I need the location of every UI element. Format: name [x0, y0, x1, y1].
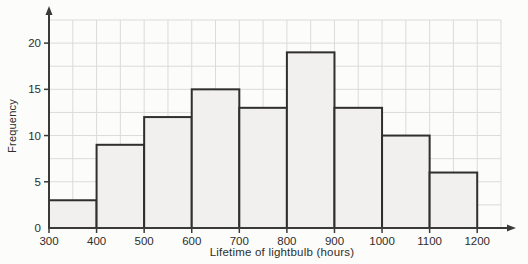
- y-tick-label: 0: [35, 222, 41, 234]
- histogram-bar: [239, 108, 287, 228]
- histogram-bar: [144, 117, 192, 228]
- histogram-bar: [430, 173, 478, 228]
- histogram-bar: [382, 136, 430, 228]
- y-axis-title: Frequency: [6, 56, 18, 196]
- chart-canvas: 0510152030040050060070080090010001100120…: [0, 0, 528, 264]
- x-axis-title: Lifetime of lightbulb (hours): [49, 246, 515, 258]
- histogram-bar: [192, 89, 240, 228]
- y-tick-label: 20: [28, 37, 41, 49]
- histogram-chart: 0510152030040050060070080090010001100120…: [0, 0, 528, 264]
- histogram-bar: [97, 145, 145, 228]
- histogram-bar: [49, 200, 97, 228]
- histogram-bar: [287, 52, 335, 228]
- y-tick-label: 10: [28, 130, 41, 142]
- y-tick-label: 5: [35, 176, 41, 188]
- y-tick-label: 15: [28, 83, 41, 95]
- histogram-bar: [334, 108, 382, 228]
